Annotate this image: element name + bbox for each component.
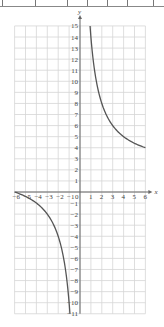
svg-text:13: 13 (71, 45, 79, 53)
svg-text:11: 11 (71, 67, 78, 75)
svg-text:−3: −3 (71, 222, 79, 230)
svg-text:−2: −2 (56, 193, 64, 201)
svg-text:10: 10 (71, 78, 79, 86)
svg-text:6: 6 (75, 122, 79, 130)
svg-text:−8: −8 (71, 277, 79, 285)
svg-text:14: 14 (71, 34, 79, 42)
svg-text:−1: −1 (71, 200, 79, 208)
curve-right (90, 26, 145, 148)
function-graph: xy −6−5−4−3−2−10123456151413121110987654… (0, 0, 164, 327)
svg-text:2: 2 (75, 166, 79, 174)
svg-text:3: 3 (111, 193, 115, 201)
svg-text:8: 8 (75, 100, 79, 108)
curve-left (15, 192, 70, 314)
svg-text:−4: −4 (71, 233, 79, 241)
svg-text:5: 5 (133, 193, 137, 201)
svg-text:15: 15 (71, 22, 79, 30)
svg-text:4: 4 (122, 193, 126, 201)
svg-text:2: 2 (100, 193, 104, 201)
svg-text:−6: −6 (71, 255, 79, 263)
svg-text:9: 9 (75, 89, 79, 97)
svg-text:−11: −11 (67, 310, 78, 318)
svg-text:x: x (153, 188, 158, 196)
svg-text:1: 1 (75, 177, 79, 185)
svg-text:12: 12 (71, 56, 79, 64)
svg-text:4: 4 (75, 144, 79, 152)
svg-text:7: 7 (75, 111, 79, 119)
svg-text:−5: −5 (71, 244, 79, 252)
svg-text:3: 3 (75, 155, 79, 163)
svg-text:−3: −3 (45, 193, 53, 201)
svg-text:5: 5 (75, 133, 79, 141)
svg-text:−4: −4 (34, 193, 42, 201)
svg-text:−2: −2 (71, 211, 79, 219)
svg-text:−7: −7 (71, 266, 79, 274)
svg-text:−9: −9 (71, 288, 79, 296)
svg-text:1: 1 (89, 193, 93, 201)
svg-text:6: 6 (143, 193, 147, 201)
svg-text:y: y (77, 8, 82, 16)
